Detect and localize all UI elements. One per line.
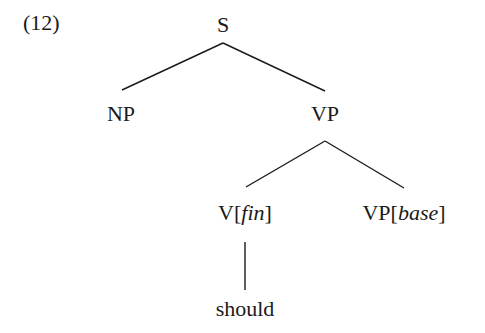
tree-branches [0, 0, 485, 333]
bracket-close: ] [265, 200, 272, 225]
node-v-fin: V[fin] [218, 202, 272, 224]
node-v-fin-category: V [218, 200, 234, 225]
example-number: (12) [23, 12, 60, 34]
branch-s-np [122, 43, 223, 90]
node-v-fin-feature: fin [241, 200, 264, 225]
node-vp-base-feature: base [398, 200, 438, 225]
node-vp: VP [311, 103, 339, 125]
branch-vp-vpbase [325, 141, 404, 188]
branch-vp-vfin [246, 141, 325, 187]
node-vp-base-category: VP [362, 200, 390, 225]
node-s: S [217, 14, 229, 36]
syntax-tree-diagram: (12) S NP VP V[fin] VP[base] should [0, 0, 485, 333]
branch-s-vp [223, 43, 325, 91]
node-vp-base: VP[base] [362, 202, 445, 224]
node-np: NP [107, 103, 135, 125]
leaf-should: should [216, 298, 275, 320]
bracket-close: ] [438, 200, 445, 225]
